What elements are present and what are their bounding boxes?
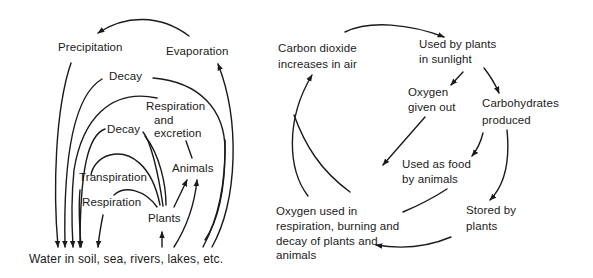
label-line: Used as food (402, 157, 471, 172)
label-line: increases in air (278, 56, 357, 72)
label-line: excretion (146, 127, 205, 141)
label-line: Carbon dioxide (278, 40, 357, 56)
arrow-evaporation-to-precipitation (98, 19, 189, 36)
label-used-by-plants: Used by plants in sunlight (419, 37, 496, 67)
label-oxygen-used: Oxygen used in respiration, burning and … (276, 204, 399, 263)
label-line: by animals (402, 172, 471, 187)
arrow-decay-inner (80, 129, 105, 247)
label-line: Carbohydrates (482, 95, 559, 112)
label-respiration: Respiration (82, 195, 141, 210)
label-line: produced (482, 112, 559, 129)
label-respiration-excretion: Respiration and excretion (146, 100, 205, 141)
label-used-as-food: Used as food by animals (402, 157, 471, 187)
label-line: in sunlight (419, 52, 496, 67)
diagram-canvas: Precipitation Evaporation Decay Respirat… (0, 0, 593, 278)
arrow-co2-to-used-by-plants (345, 25, 444, 37)
label-line: decay of plants and (276, 234, 399, 249)
label-line: Stored by (466, 203, 516, 219)
label-stored-by-plants: Stored by plants (466, 203, 516, 234)
label-line: Oxygen used in (276, 204, 399, 219)
label-decay-inner: Decay (107, 122, 140, 137)
arrow-plants-to-animals (174, 180, 187, 207)
label-line: Used by plants (419, 37, 496, 52)
label-line: and (146, 114, 205, 128)
label-line: respiration, burning and (276, 219, 399, 234)
arrow-carbohydrates-to-food (472, 133, 483, 156)
arrow-food-to-oxygen-used (403, 189, 447, 212)
label-oxygen-given-out: Oxygen given out (408, 85, 456, 114)
arrow-to-oxygen-given-out (451, 72, 463, 85)
arrow-carbohydrates-to-stored (490, 130, 508, 200)
label-transpiration: Transpiration (79, 170, 147, 185)
arrow-to-carbohydrates (484, 68, 499, 93)
label-co2: Carbon dioxide increases in air (278, 40, 357, 72)
label-line: Oxygen (408, 85, 456, 100)
label-animals: Animals (172, 161, 214, 176)
label-line: Respiration (146, 100, 205, 114)
label-precipitation: Precipitation (58, 40, 123, 55)
label-line: animals (276, 248, 399, 263)
label-line: given out (408, 100, 456, 115)
line-excretion-to-animals (186, 141, 192, 158)
label-plants: Plants (148, 211, 181, 226)
label-line: plants (466, 219, 516, 235)
label-water: Water in soil, sea, rivers, lakes, etc. (29, 252, 223, 267)
label-carbohydrates: Carbohydrates produced (482, 95, 559, 129)
label-decay-outer: Decay (109, 69, 142, 84)
label-evaporation: Evaporation (166, 44, 228, 59)
